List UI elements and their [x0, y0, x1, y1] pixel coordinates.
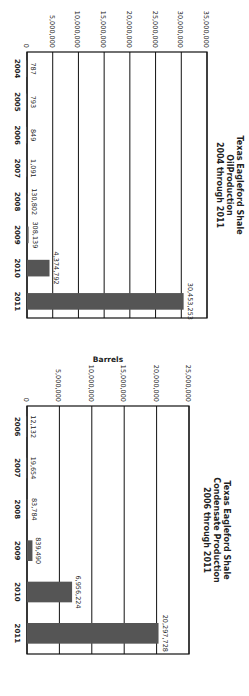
y-axis-label: Barrels [93, 355, 124, 364]
page: Texas Eagleford ShaleOilProduction2004 t… [0, 0, 249, 696]
chart-title-line: 2006 through 2011 [202, 487, 211, 574]
condensate-production-chart: Texas Eagleford ShaleCondensate Producti… [0, 348, 249, 696]
data-label: 83,784 [30, 498, 38, 521]
bar-2011 [27, 623, 159, 644]
x-tick-label: 2007 [13, 458, 21, 478]
data-label: 787 [29, 62, 37, 74]
data-label: 1,091 [29, 159, 37, 178]
y-tick-label: 10,000,000 [73, 11, 81, 48]
x-tick-label: 2009 [13, 225, 21, 245]
y-tick-label: 0 [22, 44, 30, 48]
bar-2006 [26, 127, 27, 144]
bar-2011 [27, 293, 184, 310]
y-tick-label: 20,000,000 [152, 365, 160, 402]
data-label: 4,374,792 [51, 252, 59, 285]
data-label: 12,132 [29, 415, 37, 438]
chart-title-line: Texas Eagleford Shale [222, 480, 231, 580]
x-tick-label: 2011 [13, 292, 21, 312]
bar-2010 [27, 260, 49, 277]
data-label: 839,490 [34, 537, 42, 564]
y-tick-label: 25,000,000 [151, 11, 159, 48]
bar-2009 [27, 540, 32, 561]
x-tick-label: 2005 [13, 92, 21, 112]
bar-2010 [27, 582, 72, 603]
data-label: 130,802 [30, 188, 38, 215]
x-tick-label: 2010 [13, 582, 21, 602]
y-tick-label: 0 [22, 398, 30, 402]
bar-2009 [27, 227, 29, 244]
x-tick-label: 2006 [13, 417, 21, 437]
data-label: 849 [29, 129, 37, 141]
oil-production-chart: Texas Eagleford ShaleOilProduction2004 t… [0, 0, 249, 348]
y-tick-label: 15,000,000 [119, 365, 127, 402]
bar-2006 [26, 416, 27, 437]
data-label: 793 [29, 96, 37, 108]
chart-title-line: 2004 through 2011 [215, 142, 224, 229]
data-label: 308,139 [31, 221, 39, 248]
bar-2007 [26, 160, 27, 177]
data-label: 6,956,224 [74, 575, 82, 608]
chart-title-line: Texas Eagleford Shale [235, 135, 244, 235]
data-label: 19,654 [29, 457, 37, 480]
bar-2005 [26, 94, 27, 111]
data-label: 30,453,253 [186, 283, 194, 320]
bar-2008 [27, 193, 28, 210]
y-tick-label: 5,000,000 [54, 369, 62, 402]
y-tick-label: 30,000,000 [176, 11, 184, 48]
x-tick-label: 2006 [13, 125, 21, 145]
x-tick-label: 2008 [13, 500, 21, 520]
x-tick-label: 2010 [13, 258, 21, 278]
bar-2004 [26, 60, 27, 77]
x-tick-label: 2009 [13, 541, 21, 561]
y-tick-label: 25,000,000 [184, 365, 192, 402]
bar-2007 [26, 458, 27, 479]
y-tick-label: 5,000,000 [48, 15, 56, 48]
chart-title-line: Condensate Production [212, 477, 221, 583]
chart-title-line: OilProduction [225, 154, 234, 216]
bar-2008 [27, 499, 28, 520]
x-tick-label: 2004 [13, 59, 21, 79]
y-tick-label: 10,000,000 [87, 365, 95, 402]
data-label: 20,297,728 [161, 615, 169, 652]
x-tick-label: 2008 [13, 192, 21, 212]
y-tick-label: 35,000,000 [202, 11, 210, 48]
x-tick-label: 2011 [13, 624, 21, 644]
x-tick-label: 2007 [13, 159, 21, 179]
y-tick-label: 15,000,000 [99, 11, 107, 48]
y-tick-label: 20,000,000 [125, 11, 133, 48]
